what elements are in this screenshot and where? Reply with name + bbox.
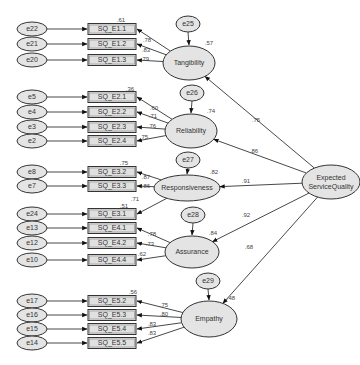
loading-value: .83 bbox=[148, 330, 157, 336]
latent-factor-label: Assurance bbox=[175, 248, 208, 255]
latent-factor-label: Empathy bbox=[195, 315, 223, 323]
error-term-label: e24 bbox=[26, 210, 38, 217]
indicator-label: SQ_E5.2 bbox=[98, 297, 127, 305]
error-term-label: e20 bbox=[26, 56, 38, 63]
diagram-canvas: e22SQ_E1.1.78.61e21SQ_E1.2.83e20SQ_E1.3.… bbox=[0, 0, 360, 365]
disturbance-label: e29 bbox=[202, 277, 214, 284]
loading-value: .80 bbox=[160, 311, 169, 317]
disturbance-path-arrow bbox=[191, 101, 192, 113]
error-term-label: e4 bbox=[28, 108, 36, 115]
loading-value: .75 bbox=[140, 134, 149, 140]
structural-coefficient: .68 bbox=[245, 244, 254, 250]
structural-path-arrow bbox=[220, 183, 302, 186]
indicator-label: SQ_E2.4 bbox=[98, 137, 127, 145]
error-term-label: e8 bbox=[28, 168, 36, 175]
loading-path-arrow bbox=[137, 327, 184, 343]
loading-path-arrow bbox=[137, 198, 167, 214]
error-term-label: e13 bbox=[26, 224, 38, 231]
loading-value: .78 bbox=[143, 37, 152, 43]
second-order-label-line2: ServiceQuality bbox=[308, 183, 354, 191]
structural-coefficient: .92 bbox=[242, 212, 251, 218]
loading-value: .83 bbox=[142, 47, 151, 53]
indicator-label: SQ_E2.3 bbox=[98, 123, 127, 131]
indicator-label: SQ_E2.1 bbox=[98, 93, 127, 101]
loading-value: .83 bbox=[148, 321, 157, 327]
disturbance-path-arrow bbox=[188, 32, 189, 45]
loading-value: .73 bbox=[146, 241, 155, 247]
r-squared-value: .75 bbox=[120, 160, 129, 166]
error-term-label: e17 bbox=[26, 297, 38, 304]
error-term-label: e15 bbox=[26, 325, 38, 332]
factor-r-squared: .48 bbox=[227, 295, 236, 301]
structural-coefficient: .91 bbox=[242, 178, 251, 184]
loading-value: .76 bbox=[148, 123, 157, 129]
latent-factor-label: Reliability bbox=[176, 127, 206, 135]
structural-path-arrow bbox=[214, 139, 307, 173]
indicator-label: SQ_E4.2 bbox=[98, 239, 127, 247]
structural-coefficient: .75 bbox=[252, 117, 261, 123]
disturbance-label: e27 bbox=[182, 156, 194, 163]
structural-coefficient: .86 bbox=[250, 148, 259, 154]
r-squared-value: .36 bbox=[126, 86, 135, 92]
error-term-label: e10 bbox=[26, 256, 38, 263]
disturbance-label: e28 bbox=[187, 211, 199, 218]
sem-path-diagram: e22SQ_E1.1.78.61e21SQ_E1.2.83e20SQ_E1.3.… bbox=[0, 0, 360, 365]
indicator-label: SQ_E1.3 bbox=[98, 56, 127, 64]
indicator-label: SQ_E2.2 bbox=[98, 108, 127, 116]
loading-value: .62 bbox=[138, 251, 147, 257]
indicator-label: SQ_E4.4 bbox=[98, 256, 127, 264]
loading-value: .60 bbox=[150, 105, 159, 111]
indicator-label: SQ_E3.1 bbox=[98, 210, 127, 218]
error-term-label: e2 bbox=[28, 137, 36, 144]
disturbance-path-arrow bbox=[187, 168, 188, 174]
error-term-label: e12 bbox=[26, 239, 38, 246]
loading-value: .71 bbox=[149, 113, 158, 119]
disturbance-path-arrow bbox=[208, 289, 209, 300]
disturbance-label: e26 bbox=[186, 89, 198, 96]
loading-value: .87 bbox=[142, 174, 151, 180]
indicator-label: SQ_E4.1 bbox=[98, 224, 127, 232]
indicator-label: SQ_E1.1 bbox=[98, 25, 127, 33]
disturbance-label: e25 bbox=[182, 20, 194, 27]
disturbance-path-arrow bbox=[192, 223, 193, 235]
factor-r-squared: .84 bbox=[209, 230, 218, 236]
indicator-label: SQ_E5.4 bbox=[98, 325, 127, 333]
factor-r-squared: .74 bbox=[207, 108, 216, 114]
loading-value: .78 bbox=[148, 231, 157, 237]
factor-r-squared: .82 bbox=[210, 169, 219, 175]
loading-value: .75 bbox=[160, 302, 169, 308]
error-term-label: e21 bbox=[26, 40, 38, 47]
structural-path-arrow bbox=[213, 193, 309, 242]
error-term-label: e7 bbox=[28, 182, 36, 189]
error-term-label: e16 bbox=[26, 311, 38, 318]
loading-value: .86 bbox=[142, 183, 151, 189]
loading-value: .71 bbox=[131, 196, 140, 202]
error-term-label: e22 bbox=[26, 25, 38, 32]
second-order-label-line1: Expected bbox=[316, 174, 345, 182]
indicator-label: SQ_E5.3 bbox=[98, 311, 127, 319]
error-term-label: e3 bbox=[28, 123, 36, 130]
r-squared-value: .61 bbox=[117, 17, 126, 23]
indicator-label: SQ_E5.5 bbox=[98, 339, 127, 347]
loading-path-arrow bbox=[137, 323, 182, 329]
error-term-label: e14 bbox=[26, 339, 38, 346]
r-squared-value: .51 bbox=[120, 203, 129, 209]
loading-value: .79 bbox=[141, 56, 150, 62]
latent-factor-label: Responsiveness bbox=[161, 184, 213, 192]
indicator-label: SQ_E3.2 bbox=[98, 168, 127, 176]
indicator-label: SQ_E3.3 bbox=[98, 182, 127, 190]
error-term-label: e5 bbox=[28, 93, 36, 100]
indicator-label: SQ_E1.2 bbox=[98, 40, 127, 48]
latent-factor-label: Tangibility bbox=[174, 59, 205, 67]
factor-r-squared: .57 bbox=[205, 40, 214, 46]
r-squared-value: .56 bbox=[129, 289, 138, 295]
